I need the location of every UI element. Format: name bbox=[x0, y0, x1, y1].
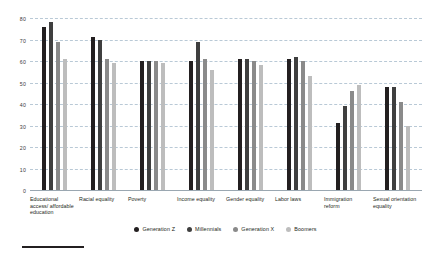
bar bbox=[301, 61, 305, 190]
x-axis-label: Sexual orientation equality bbox=[373, 196, 422, 216]
y-axis-tick-label: 70 bbox=[20, 38, 26, 44]
bar bbox=[56, 42, 60, 190]
bar-group bbox=[30, 18, 79, 190]
bar bbox=[399, 102, 403, 190]
bar bbox=[161, 63, 165, 190]
bar bbox=[238, 59, 242, 190]
bar bbox=[91, 37, 95, 190]
bar bbox=[392, 87, 396, 190]
bar bbox=[112, 63, 116, 190]
bar bbox=[42, 27, 46, 190]
bar bbox=[49, 22, 53, 190]
legend-label: Generation X bbox=[241, 226, 274, 232]
bar-group bbox=[177, 18, 226, 190]
bar-group bbox=[128, 18, 177, 190]
bar bbox=[210, 70, 214, 190]
x-axis-labels: Educational access/ affordable education… bbox=[30, 196, 422, 216]
legend-color-dot-icon bbox=[187, 227, 192, 232]
bar bbox=[189, 61, 193, 190]
bar-group bbox=[79, 18, 128, 190]
y-axis-tick-label: 50 bbox=[20, 81, 26, 87]
bar bbox=[98, 40, 102, 191]
y-axis-tick-label: 60 bbox=[20, 59, 26, 65]
bar bbox=[350, 91, 354, 190]
y-axis-tick-label: 40 bbox=[20, 102, 26, 108]
bar bbox=[385, 87, 389, 190]
x-axis-label: Poverty bbox=[128, 196, 177, 216]
bar bbox=[406, 126, 410, 191]
bar bbox=[308, 76, 312, 190]
bar bbox=[357, 85, 361, 190]
x-axis-label: Educational access/ affordable education bbox=[30, 196, 79, 216]
legend-label: Boomers bbox=[294, 226, 316, 232]
bar-group bbox=[226, 18, 275, 190]
footer-rule bbox=[22, 246, 84, 248]
bar bbox=[259, 65, 263, 190]
bar bbox=[252, 61, 256, 190]
bar bbox=[154, 61, 158, 190]
y-axis-tick-label: 80 bbox=[20, 16, 26, 22]
bar bbox=[343, 106, 347, 190]
bar-group bbox=[275, 18, 324, 190]
axis-baseline: 0 bbox=[30, 190, 422, 191]
bar bbox=[196, 42, 200, 190]
bar bbox=[63, 59, 67, 190]
plot-area: 01020304050607080 bbox=[30, 18, 422, 190]
x-axis-label: Gender equality bbox=[226, 196, 275, 216]
legend-label: Millennials bbox=[195, 226, 221, 232]
legend-item[interactable]: Boomers bbox=[286, 226, 316, 232]
x-axis-label: Income equality bbox=[177, 196, 226, 216]
bar-group bbox=[324, 18, 373, 190]
bar bbox=[336, 123, 340, 190]
bar-chart: 01020304050607080 Educational access/ af… bbox=[0, 0, 429, 255]
bar bbox=[294, 57, 298, 190]
bar-group bbox=[373, 18, 422, 190]
bar-groups bbox=[30, 18, 422, 190]
legend-item[interactable]: Millennials bbox=[187, 226, 221, 232]
legend-item[interactable]: Generation Z bbox=[134, 226, 175, 232]
chart-legend: Generation ZMillennialsGeneration XBoome… bbox=[30, 226, 421, 232]
y-axis-tick-label: 0 bbox=[23, 188, 26, 194]
bar bbox=[287, 59, 291, 190]
bar bbox=[140, 61, 144, 190]
legend-color-dot-icon bbox=[233, 227, 238, 232]
x-axis-label: Racial equality bbox=[79, 196, 128, 216]
y-axis-tick-label: 10 bbox=[20, 167, 26, 173]
bar bbox=[147, 61, 151, 190]
legend-color-dot-icon bbox=[286, 227, 291, 232]
x-axis-label: Labor laws bbox=[275, 196, 324, 216]
y-axis-tick-label: 30 bbox=[20, 124, 26, 130]
legend-item[interactable]: Generation X bbox=[233, 226, 274, 232]
legend-color-dot-icon bbox=[134, 227, 139, 232]
bar bbox=[203, 59, 207, 190]
y-axis-tick-label: 20 bbox=[20, 145, 26, 151]
bar bbox=[105, 59, 109, 190]
bar bbox=[245, 59, 249, 190]
legend-label: Generation Z bbox=[142, 226, 175, 232]
x-axis-label: Immigration reform bbox=[324, 196, 373, 216]
